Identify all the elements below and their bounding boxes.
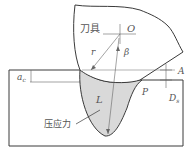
tool-workpiece-diagram: 刀具 O r β A ac P Ds L 压应力 bbox=[0, 0, 192, 161]
length-label: L bbox=[95, 94, 103, 105]
radius-label: r bbox=[91, 47, 96, 57]
compressive-stress-label: 压应力 bbox=[44, 118, 71, 129]
tool-label: 刀具 bbox=[80, 23, 100, 34]
center-label: O bbox=[127, 23, 135, 34]
depth-s-label: Ds bbox=[168, 93, 179, 104]
angle-label: β bbox=[123, 47, 129, 57]
point-a-label: A bbox=[177, 66, 185, 76]
tool-outline bbox=[74, 5, 183, 83]
point-p-label: P bbox=[141, 87, 149, 97]
depth-of-cut-label: ac bbox=[17, 72, 26, 83]
